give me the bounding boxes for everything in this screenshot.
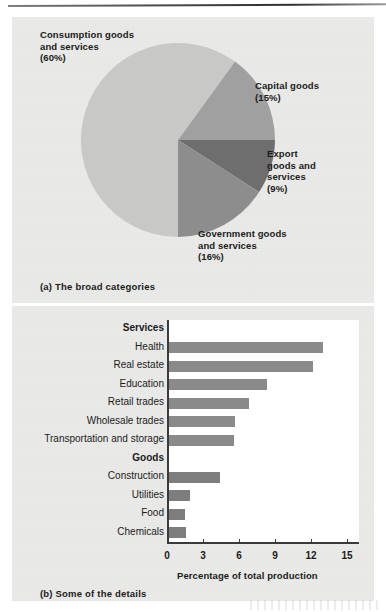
bar-chart-y-axis bbox=[167, 320, 169, 542]
bar-group-header-goods: Goods bbox=[132, 452, 164, 463]
x-tick-label-9: 9 bbox=[265, 550, 285, 561]
bar-food bbox=[167, 509, 185, 520]
x-tick-label-6: 6 bbox=[229, 550, 249, 561]
x-tick-label-12: 12 bbox=[301, 550, 321, 561]
bar-retail-trades bbox=[167, 398, 249, 409]
bar-chart-x-axis-title: Percentage of total production bbox=[177, 570, 318, 581]
bar-category-label-real-estate: Real estate bbox=[113, 359, 164, 370]
bar-group-header-services: Services bbox=[123, 322, 164, 333]
top-rule-divider bbox=[8, 3, 386, 7]
bar-transportation-and-storage bbox=[167, 435, 234, 446]
x-tick-6 bbox=[239, 539, 240, 544]
panel-a-caption: (a) The broad categories bbox=[40, 281, 155, 292]
bar-health bbox=[167, 342, 323, 353]
pie-label-consumption: Consumption goods and services (60%) bbox=[40, 29, 134, 64]
bar-wholesale-trades bbox=[167, 416, 235, 427]
bar-category-label-food: Food bbox=[141, 507, 164, 518]
bar-chemicals bbox=[167, 527, 186, 538]
figure-page: Consumption goods and services (60%) Cap… bbox=[0, 0, 386, 612]
bar-category-label-transportation-and-storage: Transportation and storage bbox=[44, 433, 164, 444]
bar-education bbox=[167, 379, 267, 390]
bar-category-label-education: Education bbox=[120, 378, 164, 389]
pie-label-export: Export goods and services (9%) bbox=[267, 148, 316, 194]
bar-category-label-chemicals: Chemicals bbox=[117, 526, 164, 537]
bar-real-estate bbox=[167, 361, 313, 372]
bar-construction bbox=[167, 472, 220, 483]
x-tick-15 bbox=[347, 539, 348, 544]
bar-utilities bbox=[167, 490, 190, 501]
x-tick-3 bbox=[203, 539, 204, 544]
x-tick-9 bbox=[275, 539, 276, 544]
page-bottom-artifact bbox=[250, 600, 380, 610]
pie-slices-svg bbox=[80, 42, 276, 238]
x-tick-label-15: 15 bbox=[337, 550, 357, 561]
pie-label-capital: Capital goods (15%) bbox=[255, 80, 319, 103]
x-tick-label-0: 0 bbox=[157, 550, 177, 561]
pie-label-government: Government goods and services (16%) bbox=[198, 228, 287, 263]
panel-a-pie-chart: Consumption goods and services (60%) Cap… bbox=[12, 17, 374, 303]
bar-category-label-construction: Construction bbox=[108, 470, 164, 481]
panel-b-caption: (b) Some of the details bbox=[40, 588, 146, 599]
x-tick-12 bbox=[311, 539, 312, 544]
bar-category-label-retail-trades: Retail trades bbox=[108, 396, 164, 407]
x-tick-label-3: 3 bbox=[193, 550, 213, 561]
bar-category-label-utilities: Utilities bbox=[132, 489, 164, 500]
bar-chart-x-axis bbox=[167, 542, 359, 544]
panel-b-bar-chart: ServicesHealthReal estateEducationRetail… bbox=[12, 306, 374, 601]
pie-chart-graphic bbox=[80, 42, 276, 238]
bar-category-label-health: Health bbox=[135, 341, 164, 352]
bar-category-label-wholesale-trades: Wholesale trades bbox=[87, 415, 164, 426]
